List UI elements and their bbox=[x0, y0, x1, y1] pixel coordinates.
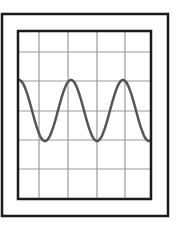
oscilloscope-diagram bbox=[0, 0, 176, 227]
